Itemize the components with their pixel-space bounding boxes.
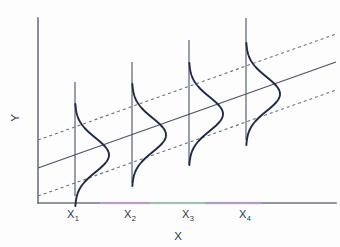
tick-subscript: 4 xyxy=(247,214,251,223)
tick-base: X xyxy=(239,208,247,220)
normal-curve-2 xyxy=(132,84,166,186)
parallel-band-line-2 xyxy=(38,90,336,196)
x-tick-label-1: X1 xyxy=(67,208,79,223)
normal-distribution-group xyxy=(75,18,280,206)
tick-base: X xyxy=(182,208,190,220)
tick-subscript: 2 xyxy=(132,214,136,223)
tick-base: X xyxy=(124,208,132,220)
normal-curve-4 xyxy=(246,43,280,145)
parallel-band-line-1 xyxy=(38,34,336,140)
y-axis-title: Y xyxy=(9,114,21,122)
normal-curve-1 xyxy=(75,104,109,206)
x-tick-label-2: X2 xyxy=(124,208,136,223)
x-tick-label-4: X4 xyxy=(239,208,251,223)
regression-line-group xyxy=(38,62,336,168)
x-tick-label-group: X1X2X3X4 xyxy=(67,208,251,223)
x-axis-title: X xyxy=(174,230,182,242)
tick-subscript: 3 xyxy=(190,214,194,223)
regression-distribution-figure: X1X2X3X4 X Y xyxy=(0,0,340,247)
normal-curve-3 xyxy=(189,63,223,165)
tick-subscript: 1 xyxy=(75,214,79,223)
figure-canvas: X1X2X3X4 X Y xyxy=(0,0,340,247)
population-regression-line xyxy=(38,62,336,168)
axis-group xyxy=(38,18,336,203)
tick-base: X xyxy=(67,208,75,220)
x-tick-label-3: X3 xyxy=(182,208,194,223)
